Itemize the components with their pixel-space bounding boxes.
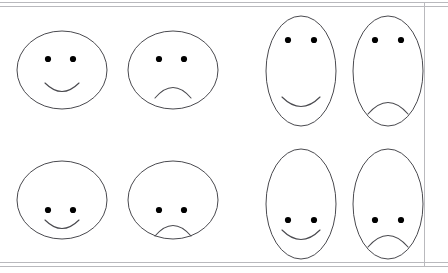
left-eye	[156, 56, 162, 62]
frame-rule-top-outer	[0, 2, 448, 3]
face-wide-sad-low	[127, 160, 219, 240]
right-eye	[398, 37, 404, 43]
left-eye	[285, 37, 291, 43]
face-outline	[17, 31, 107, 109]
face-outline	[128, 31, 218, 109]
face-outline	[353, 149, 423, 259]
left-eye	[372, 37, 378, 43]
face-tall-happy-high	[265, 15, 337, 127]
face-tall-sad-high	[352, 15, 424, 127]
left-eye	[372, 217, 378, 223]
frame-rule-right	[424, 2, 425, 267]
right-eye	[181, 207, 187, 213]
face-outline	[128, 161, 218, 239]
face-tall-happy-low	[265, 148, 337, 260]
frame-rule-bottom-outer	[0, 266, 448, 267]
left-eye	[45, 56, 51, 62]
frame-rule-top-inner	[0, 6, 448, 7]
right-eye	[70, 56, 76, 62]
frame-rule-bottom-inner	[0, 262, 448, 263]
left-eye	[156, 207, 162, 213]
face-tall-sad-low	[352, 148, 424, 260]
left-eye	[45, 207, 51, 213]
face-outline	[266, 149, 336, 259]
face-wide-happy-high	[16, 30, 108, 110]
face-wide-sad-high	[127, 30, 219, 110]
right-eye	[181, 56, 187, 62]
face-grid-figure	[0, 0, 448, 273]
right-eye	[398, 217, 404, 223]
right-eye	[70, 207, 76, 213]
right-eye	[311, 217, 317, 223]
face-outline	[353, 16, 423, 126]
face-outline	[17, 161, 107, 239]
face-outline	[266, 16, 336, 126]
left-eye	[285, 217, 291, 223]
right-eye	[311, 37, 317, 43]
face-wide-happy-low	[16, 160, 108, 240]
